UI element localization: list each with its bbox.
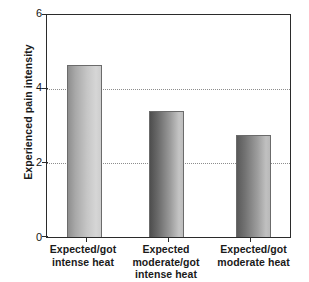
- bar-expected-got-moderate-heat: [236, 135, 271, 237]
- y-tick-mark-0: [42, 236, 48, 237]
- x-tick-label-1: Expected/got intense heat: [38, 243, 128, 268]
- bar-expected-got-intense-heat: [67, 65, 102, 237]
- x-tick-label-3-line-1: Expected/got: [206, 243, 301, 256]
- y-tick-label-6: 6: [28, 8, 42, 19]
- y-tick-mark-6: [42, 14, 48, 15]
- y-tick-mark-4: [42, 88, 48, 89]
- bar-chart-figure: Experienced pain intensity 6 4 2 0 Expec…: [0, 0, 309, 282]
- x-tick-label-2-line-2: moderate/got: [121, 256, 211, 269]
- y-tick-mark-2: [42, 162, 48, 163]
- x-tick-label-2-line-1: Expected: [121, 243, 211, 256]
- y-tick-label-4: 4: [28, 82, 42, 93]
- x-tick-label-3-line-2: moderate heat: [206, 256, 301, 269]
- bar-expected-moderate-got-intense-heat: [149, 111, 184, 237]
- x-tick-label-1-line-2: intense heat: [38, 256, 128, 269]
- y-tick-label-2: 2: [28, 157, 42, 168]
- x-tick-label-3: Expected/got moderate heat: [206, 243, 301, 268]
- y-axis-tick-labels: 6 4 2 0: [26, 0, 42, 282]
- x-axis-tick-labels: Expected/got intense heat Expected moder…: [46, 243, 291, 282]
- x-tick-label-1-line-1: Expected/got: [38, 243, 128, 256]
- plot-area: [46, 14, 291, 238]
- x-tick-label-2: Expected moderate/got intense heat: [121, 243, 211, 281]
- x-tick-label-2-line-3: intense heat: [121, 268, 211, 281]
- y-tick-label-0: 0: [28, 232, 42, 243]
